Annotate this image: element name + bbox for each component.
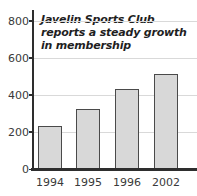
bar-1995 (76, 109, 100, 169)
y-axis-line (32, 10, 34, 170)
bar-2002 (154, 74, 178, 169)
x-axis-label-1996: 1996 (113, 176, 141, 189)
bar-1996 (115, 89, 139, 169)
chart-title: Javelin Sports Club reports a steady gro… (41, 13, 193, 53)
x-axis-label-2002: 2002 (152, 176, 180, 189)
bar-1994 (38, 126, 62, 169)
gridline-800 (33, 21, 197, 22)
x-axis-line (31, 168, 197, 171)
x-axis-label-1994: 1994 (36, 176, 64, 189)
y-axis-label-0: 0 (1, 164, 29, 175)
gridline-600 (33, 58, 197, 59)
y-axis-label-600: 600 (1, 52, 29, 63)
x-axis-label-1995: 1995 (74, 176, 102, 189)
y-axis-label-400: 400 (1, 89, 29, 100)
y-axis-label-200: 200 (1, 126, 29, 137)
y-axis-label-800: 800 (1, 15, 29, 26)
bar-chart: Javelin Sports Club reports a steady gro… (0, 0, 197, 196)
